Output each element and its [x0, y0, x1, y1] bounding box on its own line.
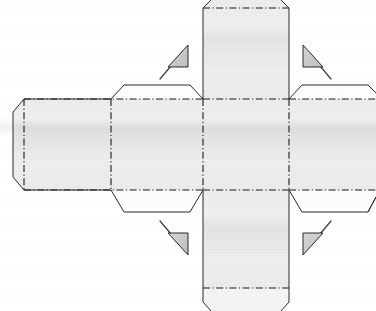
panel-fills [13, 0, 376, 311]
panel-fill-center-face [203, 99, 289, 190]
fold-arrow-bottom-left [160, 221, 188, 255]
fold-arrow-top-right [303, 45, 331, 79]
panel-fill-bottom-face [203, 190, 289, 288]
cube-net-svg [0, 0, 376, 311]
fold-arrow-bottom-right-head [303, 233, 323, 255]
panel-fill-right-bottom-tab [289, 190, 376, 212]
fold-arrow-bottom-left-head [168, 233, 188, 255]
fold-arrow-top-right-head [303, 45, 323, 67]
fold-arrow-top-left-head [168, 45, 188, 67]
panel-fill-right-face [289, 99, 376, 190]
panel-fill-far-left-face [13, 99, 111, 190]
panel-fill-bottom-glue-flap [203, 288, 289, 311]
panel-fill-top-face [203, 0, 289, 99]
panel-fill-left-top-tab [111, 85, 203, 99]
fold-arrow-top-left [160, 45, 188, 79]
panel-fill-right-top-tab [289, 85, 376, 99]
cube-net-diagram [0, 0, 376, 311]
panel-fill-left-bottom-tab [111, 190, 203, 212]
panel-fill-left-face [111, 99, 203, 190]
fold-arrow-bottom-right [303, 221, 331, 255]
